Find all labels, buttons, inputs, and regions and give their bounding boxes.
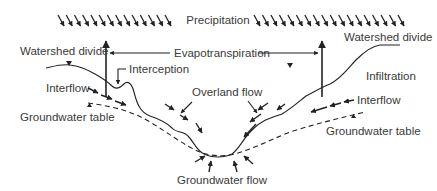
overland-flow-pointer-right	[248, 101, 257, 113]
rain-arrow-icon	[91, 15, 97, 26]
interflow-arrow-right-2	[330, 103, 341, 106]
rain-arrow-icon	[381, 15, 387, 26]
interflow-arrow-left-3	[115, 101, 126, 105]
overland-flow-arrow-l1	[165, 104, 174, 110]
interception-label: Interception	[129, 63, 189, 75]
rain-arrow-icon	[140, 15, 146, 26]
rain-arrow-icon	[58, 15, 64, 26]
overland-flow-arrow-r2	[258, 103, 268, 110]
rain-arrow-icon	[279, 15, 285, 26]
watershed-divide-right-label: Watershed divide	[344, 31, 432, 43]
groundwater-flow-label: Groundwater flow	[177, 174, 268, 186]
interflow-arrow-right-1	[344, 100, 354, 102]
rain-arrow-icon	[356, 15, 362, 26]
rain-arrow-icon	[390, 15, 396, 26]
interception-pointer	[118, 69, 126, 84]
overland-flow-label: Overland flow	[192, 86, 263, 98]
interflow-right-label: Interflow	[357, 94, 401, 106]
rain-arrow-icon	[288, 15, 294, 26]
rain-arrow-icon	[107, 15, 113, 26]
groundwater-flow-arrow-4	[244, 156, 253, 164]
groundwater-table-right-label: Groundwater table	[326, 125, 421, 137]
overland-flow-arrow-r4	[244, 124, 256, 137]
infiltration-label: Infiltration	[366, 70, 416, 82]
rain-arrow-icon	[305, 15, 311, 26]
overland-flow-arrow-r1	[277, 104, 285, 110]
groundwater-table-left-label: Groundwater table	[20, 111, 115, 123]
rain-arrow-icon	[157, 15, 163, 26]
precipitation-arrows-left	[58, 15, 171, 26]
rain-arrow-icon	[83, 15, 89, 26]
rain-arrow-icon	[373, 15, 379, 26]
rain-arrow-icon	[74, 15, 80, 26]
rain-arrow-icon	[271, 15, 277, 26]
watershed-divide-left-label: Watershed divide	[20, 45, 108, 57]
overland-flow-arrow-r3	[250, 114, 261, 122]
rain-arrow-icon	[165, 15, 171, 26]
rain-arrow-icon	[398, 15, 404, 26]
rain-arrow-icon	[254, 15, 260, 26]
overland-flow-pointer-left	[181, 102, 192, 113]
groundwater-flow-arrow-3	[234, 161, 237, 172]
precipitation-label: Precipitation	[186, 14, 249, 26]
rain-arrow-icon	[339, 15, 345, 26]
rain-arrow-icon	[296, 15, 302, 26]
rain-arrow-icon	[132, 15, 138, 26]
evapotranspiration-label: Evapotranspiration	[174, 47, 270, 59]
overland-flow-arrow-l3	[196, 123, 202, 133]
precipitation-arrows-right	[254, 15, 404, 26]
rain-arrow-icon	[66, 15, 72, 26]
rain-arrow-icon	[149, 15, 155, 26]
watershed-diagram: Precipitation Evapotranspiration Watersh…	[0, 0, 437, 191]
interflow-arrow-left-1	[88, 88, 98, 93]
groundwater-table	[88, 103, 365, 156]
groundwater-flow-arrow-2	[209, 161, 211, 172]
rain-arrow-icon	[262, 15, 268, 26]
interflow-arrow-right-3	[311, 107, 327, 112]
groundwater-flow-arrow-1	[195, 156, 205, 162]
groundwater-table-right-marker	[351, 114, 356, 118]
infiltration-marker	[287, 63, 293, 68]
interflow-left-label: Interflow	[46, 82, 90, 94]
rain-arrow-icon	[99, 15, 105, 26]
rain-arrow-icon	[364, 15, 370, 26]
overland-flow-arrow-l2	[180, 115, 188, 120]
rain-arrow-icon	[124, 15, 130, 26]
rain-arrow-icon	[116, 15, 122, 26]
rain-arrow-icon	[313, 15, 319, 26]
rain-arrow-icon	[347, 15, 353, 26]
rain-arrow-icon	[322, 15, 328, 26]
rain-arrow-icon	[330, 15, 336, 26]
